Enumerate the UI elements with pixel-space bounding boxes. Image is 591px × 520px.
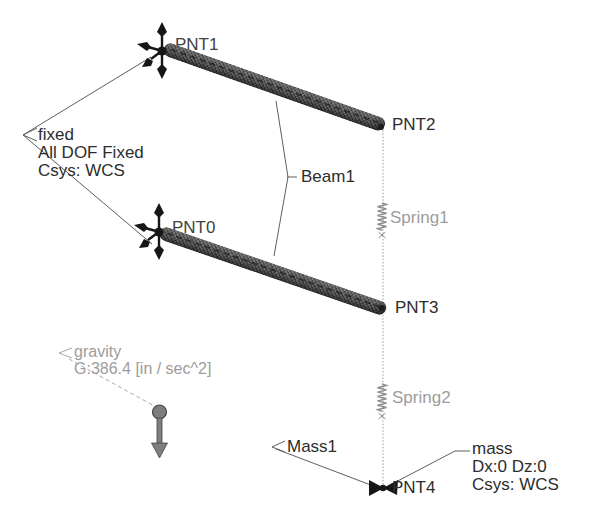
mass-csys: Csys: WCS (472, 476, 559, 494)
mass1-label[interactable]: Mass1 (287, 438, 337, 456)
gravity-name: gravity (74, 343, 211, 360)
mass-name: mass (472, 440, 559, 458)
point-label-pnt3[interactable]: PNT3 (395, 299, 438, 317)
point-label-pnt2[interactable]: PNT2 (392, 116, 435, 134)
spring2-label[interactable]: Spring2 (392, 389, 451, 407)
mass-offsets: Dx:0 Dz:0 (472, 458, 559, 476)
point-marker-pnt2[interactable] (378, 124, 384, 130)
gravity-note[interactable]: gravity G:386.4 [in / sec^2] (74, 343, 211, 377)
fixed-constraint-symbol-pnt1[interactable] (137, 22, 167, 79)
point-marker-pnt3[interactable] (379, 305, 385, 311)
fixed-constraint-csys: Csys: WCS (38, 162, 144, 180)
beam1-label[interactable]: Beam1 (301, 168, 355, 186)
point-label-pnt4[interactable]: PNT4 (392, 479, 435, 497)
gravity-symbol[interactable] (152, 405, 168, 458)
fixed-constraint-symbol-pnt0[interactable] (134, 203, 164, 260)
gravity-value: G:386.4 [in / sec^2] (74, 360, 211, 377)
model-viewport[interactable]: PNT1 PNT0 (0, 0, 591, 520)
mass-note[interactable]: mass Dx:0 Dz:0 Csys: WCS (472, 440, 559, 494)
fixed-constraint-name: fixed (38, 126, 144, 144)
fixed-constraint-note[interactable]: fixed All DOF Fixed Csys: WCS (38, 126, 144, 180)
fixed-constraint-dof: All DOF Fixed (38, 144, 144, 162)
spring1-label[interactable]: Spring1 (390, 209, 449, 227)
